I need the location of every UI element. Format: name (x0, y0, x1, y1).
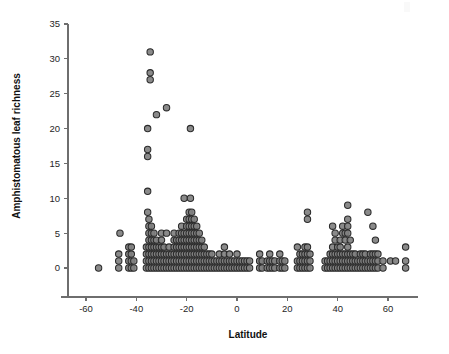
data-point (380, 258, 386, 264)
x-tick-label: 40 (332, 303, 343, 314)
data-point (199, 237, 205, 243)
data-point (148, 223, 154, 229)
data-point (131, 258, 137, 264)
data-point (402, 244, 408, 250)
data-point (163, 104, 169, 110)
y-tick-label: 30 (49, 53, 60, 64)
data-point (392, 258, 398, 264)
data-point (402, 258, 408, 264)
y-tick-label: 20 (49, 123, 60, 134)
data-point (117, 230, 123, 236)
scatter-plot-figure: 05101520253035 -60-40-200204060 Latitude… (0, 0, 449, 354)
y-tick-label: 15 (49, 158, 60, 169)
data-point (144, 146, 150, 152)
x-tick-label: -40 (129, 303, 143, 314)
data-point (95, 265, 101, 271)
data-point (304, 244, 310, 250)
x-axis: -60-40-200204060 (61, 282, 418, 314)
data-point (337, 244, 343, 250)
data-point (282, 258, 288, 264)
x-tick-label: -20 (180, 303, 194, 314)
plot-canvas: 05101520253035 -60-40-200204060 Latitude… (0, 0, 449, 354)
data-point (153, 111, 159, 117)
data-point (329, 223, 335, 229)
y-axis-title: Amphistomatous leaf richness (11, 73, 22, 219)
data-point (144, 125, 150, 131)
x-tick-label: 0 (234, 303, 239, 314)
data-point (187, 125, 193, 131)
data-point (209, 251, 215, 257)
data-point (151, 230, 157, 236)
data-point (128, 244, 134, 250)
y-tick-label: 0 (55, 262, 60, 273)
x-tick-label: 20 (282, 303, 293, 314)
data-point (345, 244, 351, 250)
y-tick-label: 5 (55, 228, 60, 239)
data-point (307, 265, 313, 271)
data-point (187, 195, 193, 201)
data-point (146, 216, 152, 222)
data-point (246, 258, 252, 264)
y-axis: 05101520253035 (49, 18, 68, 282)
data-point (372, 237, 378, 243)
data-point (144, 209, 150, 215)
data-point (332, 230, 338, 236)
data-point (163, 230, 169, 236)
y-tick-label: 10 (49, 193, 60, 204)
data-point (116, 258, 122, 264)
data-point (144, 188, 150, 194)
data-point (267, 251, 273, 257)
data-point (201, 244, 207, 250)
data-points-layer (95, 49, 408, 272)
data-point (304, 216, 310, 222)
data-point (345, 202, 351, 208)
data-point (345, 223, 351, 229)
data-point (189, 209, 195, 215)
data-point (365, 209, 371, 215)
data-point (221, 244, 227, 250)
data-point (147, 49, 153, 55)
data-point (304, 209, 310, 215)
data-point (196, 230, 202, 236)
data-point (402, 265, 408, 271)
data-point (246, 265, 252, 271)
data-point (345, 230, 351, 236)
data-point (194, 223, 200, 229)
data-point (147, 77, 153, 83)
data-point (345, 216, 351, 222)
data-point (158, 237, 164, 243)
data-point (282, 265, 288, 271)
data-point (191, 216, 197, 222)
data-point (277, 251, 283, 257)
data-point (116, 251, 122, 257)
data-point (256, 251, 262, 257)
data-point (294, 244, 300, 250)
data-point (375, 251, 381, 257)
data-point (144, 153, 150, 159)
data-point (131, 265, 137, 271)
y-tick-label: 35 (49, 18, 60, 29)
data-point (116, 265, 122, 271)
data-point (307, 251, 313, 257)
x-tick-label: -60 (79, 303, 93, 314)
data-point (128, 251, 134, 257)
data-point (347, 237, 353, 243)
x-tick-label: 60 (383, 303, 394, 314)
data-point (234, 251, 240, 257)
data-point (226, 251, 232, 257)
data-point (307, 258, 313, 264)
data-point (380, 265, 386, 271)
data-point (370, 223, 376, 229)
y-tick-label: 25 (49, 88, 60, 99)
scan-artifact (404, 2, 410, 12)
x-axis-title: Latitude (229, 329, 268, 340)
data-point (147, 70, 153, 76)
data-point (181, 195, 187, 201)
